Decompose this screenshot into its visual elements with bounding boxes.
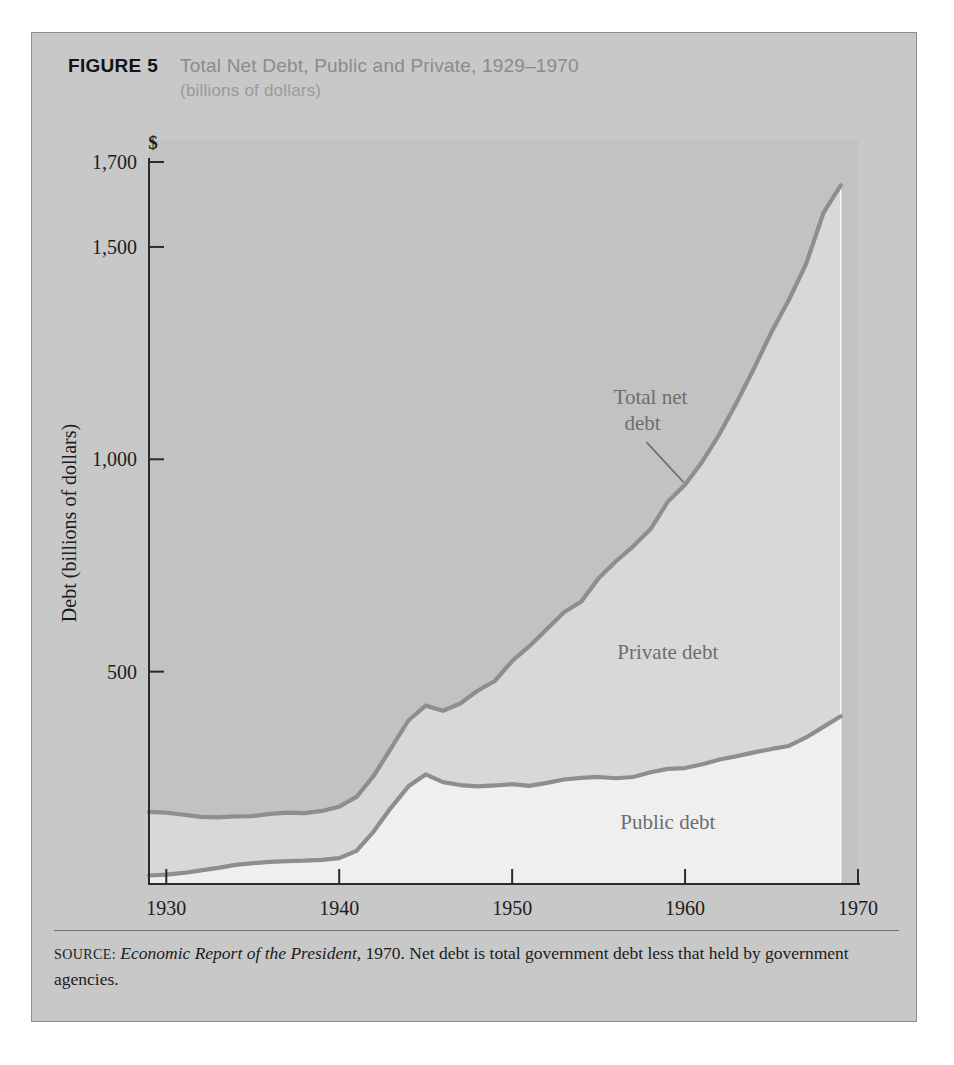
- x-tick-label: 1940: [319, 897, 359, 919]
- y-tick-label: 1,500: [92, 236, 137, 258]
- annotation-public-debt: Public debt: [620, 810, 715, 834]
- page-root: FIGURE 5 Total Net Debt, Public and Priv…: [0, 0, 954, 1065]
- chart-area: 5001,0001,5001,700$19301940195019601970D…: [32, 33, 918, 1023]
- y-tick-label: 1,000: [92, 448, 137, 470]
- x-tick-label: 1960: [665, 897, 705, 919]
- annotation-private-debt: Private debt: [617, 640, 718, 664]
- x-tick-label: 1970: [838, 897, 878, 919]
- y-axis-title: Debt (billions of dollars): [58, 424, 81, 622]
- source-publication: Economic Report of the President,: [120, 943, 361, 963]
- annotation-total-net-debt: Total net: [614, 385, 688, 409]
- y-tick-label: 1,700: [92, 151, 137, 173]
- currency-symbol: $: [148, 132, 158, 153]
- debt-area-chart: 5001,0001,5001,700$19301940195019601970D…: [32, 33, 918, 1023]
- source-note: SOURCE: Economic Report of the President…: [54, 941, 902, 991]
- y-tick-label: 500: [107, 661, 137, 683]
- annotation-total-net-debt-line2: debt: [624, 411, 660, 435]
- figure-panel: FIGURE 5 Total Net Debt, Public and Priv…: [31, 32, 917, 1022]
- source-kicker: SOURCE:: [54, 947, 116, 962]
- x-tick-label: 1930: [146, 897, 186, 919]
- source-divider: [54, 930, 899, 931]
- x-tick-label: 1950: [492, 897, 532, 919]
